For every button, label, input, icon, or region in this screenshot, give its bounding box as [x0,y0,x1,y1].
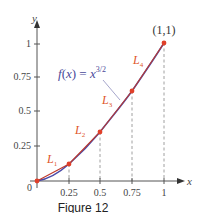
x-tick-label-1: 1 [162,187,167,198]
point-0.5 [98,130,103,135]
y-tick-label-1: 1 [26,38,31,49]
y-tick-label-0.5: 0.5 [19,105,32,116]
segment-label-L1: L1 [46,152,58,168]
x-tick-label-0.5: 0.5 [94,187,107,198]
x-axis-label: x [186,175,192,187]
function-label: f(x) = x3/2 [58,65,106,81]
y-tick-label-0.75: 0.75 [14,71,32,82]
origin-label: 0 [27,182,32,193]
segment-label-L3: L3 [101,93,113,109]
x-tick-label-0.75: 0.75 [123,187,141,198]
y-axis-label: y [31,12,37,24]
point-0 [35,179,40,184]
x-tick-label-0.25: 0.25 [60,187,78,198]
y-tick-label-0.25: 0.25 [14,140,32,151]
figure-caption: Figure 12 [58,201,109,213]
point-0.75 [130,89,135,94]
endpoint-label: (1,1) [153,23,176,37]
segment-label-L4: L4 [132,53,144,69]
figure-12: x y 0 0.25 0.5 0.75 1 1 0.75 0.5 0.25 L1… [0,0,197,213]
point-1 [162,41,167,46]
segment-label-L2: L2 [74,123,86,139]
x-axis-arrow-icon [177,178,185,184]
point-0.25 [67,162,72,167]
